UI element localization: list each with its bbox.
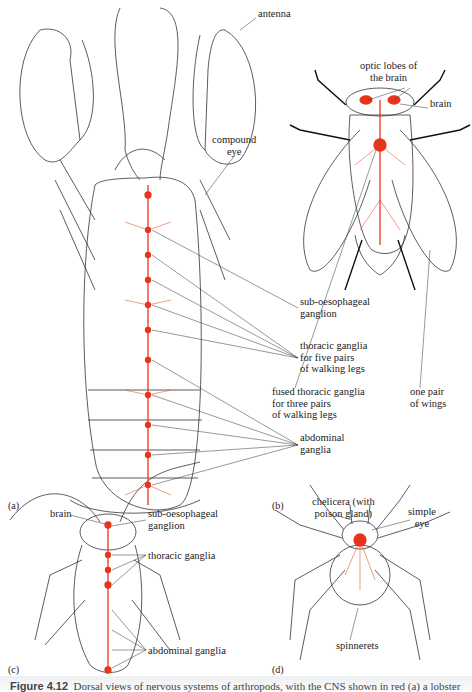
panel-tag-a: (a) — [8, 500, 19, 511]
label-abdominal-ganglia-a: abdominal ganglia — [300, 432, 344, 455]
label-simple-eye: simple eye — [408, 506, 436, 529]
label-abdominal-ganglia-c: abdominal ganglia — [148, 645, 226, 657]
figure-caption: Figure 4.12 Dorsal views of nervous syst… — [10, 680, 460, 692]
panel-tag-c: (c) — [8, 664, 19, 675]
label-chelicera: chelicera (with poison gland) — [312, 496, 375, 519]
nerve-cords — [105, 96, 400, 673]
label-thoracic-ganglia-a: thoracic ganglia for five pairs of walki… — [300, 340, 367, 375]
label-sub-oesophageal-ganglion-c: sub-oesophageal ganglion — [148, 508, 218, 531]
panel-tag-b: (b) — [272, 500, 284, 511]
label-optic-lobes: optic lobes of the brain — [360, 60, 417, 83]
label-fused-thoracic-ganglia: fused thoracic ganglia for three pairs o… — [272, 386, 365, 421]
label-spinnerets: spinnerets — [336, 640, 379, 652]
label-thoracic-ganglia-c: thoracic ganglia — [148, 550, 215, 562]
label-antenna: antenna — [258, 8, 291, 20]
panel-tag-d: (d) — [272, 664, 284, 675]
label-brain-c: brain — [50, 508, 72, 520]
label-brain-b: brain — [430, 98, 452, 110]
label-one-pair-of-wings: one pair of wings — [410, 386, 446, 409]
label-sub-oesophageal-ganglion-a: sub-oesophageal ganglion — [300, 296, 370, 319]
label-compound-eye: compound eye — [212, 134, 256, 157]
leader-lines — [70, 18, 430, 668]
caption-text: Dorsal views of nervous systems of arthr… — [74, 680, 461, 692]
cockroach-drawing — [10, 462, 200, 673]
lobster-drawing — [20, 8, 256, 513]
caption-number: Figure 4.12 — [10, 680, 68, 692]
